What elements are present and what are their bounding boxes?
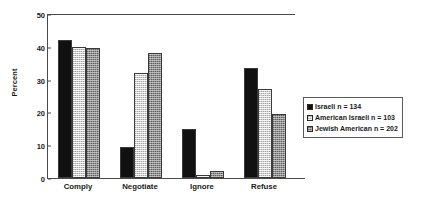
bar-comply-series-2 (86, 48, 100, 178)
bar-negotiate-series-1 (134, 73, 148, 178)
bar-negotiate-series-2 (148, 53, 162, 178)
y-tick-mark (48, 146, 51, 147)
x-label-ignore: Ignore (171, 182, 233, 191)
bar-refuse-series-1 (258, 89, 272, 178)
bar-chart-figure: Percent 01020304050 ComplyNegotiateIgnor… (0, 0, 424, 209)
bar-refuse-series-2 (272, 114, 286, 178)
y-tick-mark (48, 47, 51, 48)
y-tick-40: 40 (37, 43, 48, 52)
y-tick-50: 50 (37, 11, 48, 20)
legend-swatch-icon (307, 126, 313, 132)
legend-label: Israeli n = 134 (315, 103, 361, 110)
legend-label: American Israeli n = 103 (315, 114, 395, 121)
bar-comply-series-0 (58, 40, 72, 178)
legend-item-1: American Israeli n = 103 (307, 112, 398, 123)
y-tick-20: 20 (37, 109, 48, 118)
y-tick-10: 10 (37, 142, 48, 151)
plot-area: 01020304050 (47, 14, 295, 178)
y-tick-mark (48, 113, 51, 114)
y-tick-label: 30 (37, 76, 48, 85)
y-tick-mark (48, 80, 51, 81)
legend-label: Jewish American n = 202 (315, 125, 398, 132)
legend-item-2: Jewish American n = 202 (307, 123, 398, 134)
y-tick-30: 30 (37, 76, 48, 85)
bar-group-refuse (244, 15, 286, 178)
chart-legend: Israeli n = 134American Israeli n = 103J… (303, 97, 403, 138)
x-label-comply: Comply (47, 182, 109, 191)
bar-comply-series-1 (72, 47, 86, 178)
bar-group-negotiate (120, 15, 162, 178)
y-tick-mark (48, 15, 51, 16)
x-axis-line (47, 178, 305, 179)
bar-group-ignore (182, 15, 224, 178)
x-label-refuse: Refuse (233, 182, 295, 191)
bar-ignore-series-0 (182, 129, 196, 178)
x-label-negotiate: Negotiate (109, 182, 171, 191)
y-tick-label: 40 (37, 43, 48, 52)
y-tick-label: 10 (37, 142, 48, 151)
bar-negotiate-series-0 (120, 147, 134, 178)
legend-swatch-icon (307, 104, 313, 110)
legend-item-0: Israeli n = 134 (307, 101, 398, 112)
y-tick-label: 50 (37, 11, 48, 20)
bar-refuse-series-0 (244, 68, 258, 178)
y-tick-label: 20 (37, 109, 48, 118)
legend-swatch-icon (307, 115, 313, 121)
bar-group-comply (58, 15, 100, 178)
y-axis-title: Percent (10, 53, 19, 113)
